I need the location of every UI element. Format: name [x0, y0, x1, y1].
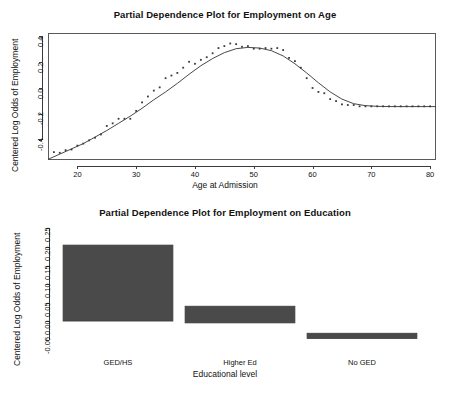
scatter-point: [318, 91, 320, 93]
scatter-point: [141, 101, 143, 103]
education-y-tick-label: 0.20: [43, 246, 52, 261]
scatter-point: [406, 105, 408, 107]
scatter-point: [329, 98, 331, 100]
scatter-point: [153, 90, 155, 92]
scatter-point: [229, 43, 231, 45]
scatter-point: [194, 63, 196, 65]
age-smooth-curve: [48, 47, 436, 159]
scatter-point: [200, 59, 202, 61]
age-x-tick-mark: [136, 166, 137, 169]
age-x-tick-mark: [313, 166, 314, 169]
scatter-point: [235, 43, 237, 45]
scatter-point: [376, 105, 378, 107]
age-x-tick-label: 20: [68, 170, 86, 179]
age-y-tick-label: -0.4: [36, 138, 45, 151]
scatter-point: [71, 149, 73, 151]
scatter-point: [212, 52, 214, 54]
scatter-point: [300, 67, 302, 69]
scatter-point: [65, 149, 67, 151]
scatter-point: [147, 96, 149, 98]
figure-root: Partial Dependence Plot for Employment o…: [0, 0, 450, 393]
age-x-tick-label: 40: [186, 170, 204, 179]
education-category-label: Higher Ed: [195, 358, 285, 367]
education-category-label: GED/HS: [73, 358, 163, 367]
scatter-point: [270, 48, 272, 50]
scatter-point: [135, 110, 137, 112]
scatter-point: [223, 45, 225, 47]
education-y-tick-label: 0.05: [43, 302, 52, 317]
scatter-point: [82, 143, 84, 145]
education-y-tick-label: -0.05: [43, 336, 52, 353]
chart-partial-dependence-education: Partial Dependence Plot for Employment o…: [0, 196, 450, 393]
scatter-point: [259, 48, 261, 50]
scatter-point: [353, 104, 355, 106]
scatter-point: [400, 105, 402, 107]
scatter-point: [253, 48, 255, 50]
age-x-tick-mark: [371, 166, 372, 169]
education-y-tick-label: 0.10: [43, 283, 52, 298]
scatter-point: [218, 47, 220, 49]
scatter-point: [394, 105, 396, 107]
scatter-point: [359, 105, 361, 107]
age-y-tick-label: -0.2: [36, 112, 45, 125]
scatter-point: [53, 151, 55, 153]
education-bar: [185, 306, 295, 323]
scatter-point: [294, 60, 296, 62]
age-x-tick-mark: [254, 166, 255, 169]
age-data-layer: [48, 33, 436, 160]
age-x-tick-label: 80: [421, 170, 439, 179]
scatter-point: [429, 105, 431, 107]
education-bar: [63, 245, 173, 321]
age-x-tick-label: 50: [245, 170, 263, 179]
age-scatter-points: [53, 43, 431, 154]
scatter-point: [335, 100, 337, 102]
scatter-point: [423, 105, 425, 107]
scatter-point: [124, 118, 126, 120]
age-x-tick-mark: [430, 166, 431, 169]
education-category-label: No GED: [317, 358, 407, 367]
scatter-point: [171, 75, 173, 77]
age-chart-title: Partial Dependence Plot for Employment o…: [0, 9, 450, 20]
scatter-point: [365, 105, 367, 107]
age-y-tick-label: 0.2: [36, 62, 45, 72]
education-y-tick-label: 0.00: [43, 320, 52, 335]
scatter-point: [188, 61, 190, 63]
age-x-tick-label: 70: [362, 170, 380, 179]
scatter-point: [206, 56, 208, 58]
age-y-tick-label: 0.4: [36, 36, 45, 46]
scatter-point: [306, 77, 308, 79]
scatter-point: [323, 92, 325, 94]
scatter-point: [88, 139, 90, 141]
scatter-point: [288, 57, 290, 59]
scatter-point: [118, 118, 120, 120]
scatter-point: [276, 47, 278, 49]
scatter-point: [129, 118, 131, 120]
scatter-point: [94, 137, 96, 139]
scatter-point: [388, 105, 390, 107]
scatter-point: [176, 72, 178, 74]
education-y-tick-label: 0.15: [43, 265, 52, 280]
scatter-point: [265, 47, 267, 49]
education-y-tick-label: 0.25: [43, 228, 52, 243]
scatter-point: [241, 46, 243, 48]
scatter-point: [112, 122, 114, 124]
scatter-point: [370, 105, 372, 107]
age-x-tick-label: 60: [304, 170, 322, 179]
scatter-point: [412, 105, 414, 107]
age-y-axis-title: Centered Log Odds of Employment: [10, 39, 20, 172]
scatter-point: [341, 103, 343, 105]
scatter-point: [382, 105, 384, 107]
scatter-point: [165, 77, 167, 79]
scatter-point: [76, 145, 78, 147]
scatter-point: [59, 152, 61, 154]
scatter-point: [100, 134, 102, 136]
scatter-point: [159, 86, 161, 88]
scatter-point: [182, 67, 184, 69]
scatter-point: [312, 87, 314, 89]
age-x-axis-title: Age at Admission: [0, 180, 450, 190]
age-x-tick-mark: [195, 166, 196, 169]
scatter-point: [347, 104, 349, 106]
age-x-tick-mark: [77, 166, 78, 169]
scatter-point: [417, 105, 419, 107]
chart-partial-dependence-age: Partial Dependence Plot for Employment o…: [0, 0, 450, 196]
